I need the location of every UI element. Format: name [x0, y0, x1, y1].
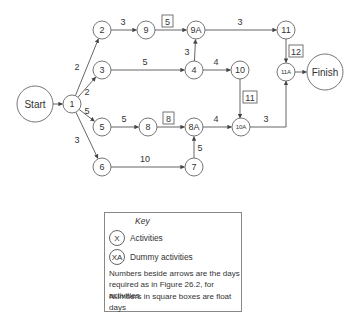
duration-label: 3: [237, 17, 242, 27]
legend-title: Key: [135, 216, 150, 226]
duration-label: 4: [213, 114, 218, 124]
node-9: 9: [137, 21, 155, 39]
network-diagram: 225333534545103 Start1299A11341011AFinis…: [0, 0, 358, 210]
duration-label: 5: [121, 114, 126, 124]
node-label: 8: [145, 122, 150, 132]
node-label: Finish: [312, 67, 339, 78]
duration-label: 5: [84, 106, 89, 116]
node-label: 9A: [190, 25, 201, 35]
duration-label: 5: [197, 143, 202, 153]
node-label: 1: [69, 99, 74, 109]
float-box: 5: [162, 15, 173, 27]
duration-label: 3: [184, 47, 189, 57]
node-start: Start: [17, 86, 53, 122]
node-label: 4: [191, 65, 196, 75]
node-label: 10A: [236, 124, 247, 130]
node-6: 6: [93, 158, 111, 176]
node-label: Start: [24, 99, 45, 110]
node-10a: 10A: [232, 118, 250, 136]
activity-symbol: X: [109, 230, 125, 246]
node-label: 9: [143, 25, 148, 35]
node-7: 7: [185, 158, 203, 176]
node-label: 3: [99, 65, 104, 75]
node-4: 4: [185, 61, 203, 79]
node-11: 11: [277, 21, 295, 39]
duration-label: 4: [213, 57, 218, 67]
arrow-4-9A: [194, 39, 195, 61]
legend-note-float: Numbers in square boxes are float days: [109, 291, 241, 313]
svg-text:5: 5: [165, 17, 170, 27]
legend-box: Key X Activities XA Dummy activities Num…: [104, 212, 242, 312]
node-9a: 9A: [187, 21, 205, 39]
duration-label: 3: [120, 17, 125, 27]
node-11a: 11A: [277, 63, 295, 81]
duration-label: 2: [84, 87, 89, 97]
node-3: 3: [93, 61, 111, 79]
node-10: 10: [231, 61, 249, 79]
svg-text:8: 8: [166, 114, 171, 124]
node-8: 8: [139, 118, 157, 136]
legend-dummy: XA Dummy activities: [109, 249, 193, 265]
activity-label: Activities: [130, 233, 163, 243]
node-label: 6: [99, 162, 104, 172]
node-label: 10: [235, 65, 245, 75]
node-label: 8A: [188, 122, 199, 132]
duration-label: 2: [74, 62, 79, 72]
dummy-symbol: XA: [109, 249, 125, 265]
duration-label: 10: [140, 154, 150, 164]
float-box: 8: [163, 112, 174, 124]
node-label: 2: [99, 25, 104, 35]
svg-text:11: 11: [245, 93, 254, 103]
svg-text:12: 12: [291, 47, 301, 57]
node-2: 2: [93, 21, 111, 39]
node-8a: 8A: [185, 118, 203, 136]
float-box: 12: [289, 45, 303, 57]
duration-label: 3: [263, 114, 268, 124]
legend-activities: X Activities: [109, 230, 163, 246]
node-finish: Finish: [307, 54, 343, 90]
node-label: 7: [191, 162, 196, 172]
float-box: 11: [243, 91, 257, 103]
duration-label: 5: [142, 57, 147, 67]
node-label: 11A: [281, 69, 291, 75]
dummy-label: Dummy activities: [130, 252, 193, 262]
node-1: 1: [63, 95, 81, 113]
node-5: 5: [93, 118, 111, 136]
duration-label: 3: [74, 135, 79, 145]
node-label: 5: [99, 122, 104, 132]
node-label: 11: [281, 25, 290, 35]
